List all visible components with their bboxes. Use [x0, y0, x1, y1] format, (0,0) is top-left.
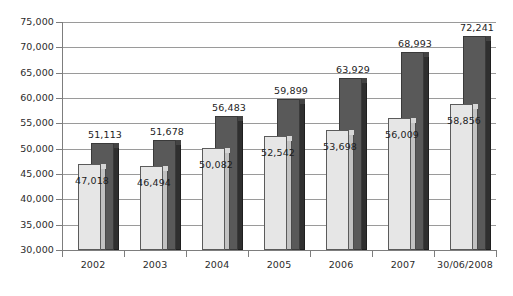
data-label-light-2004: 50,082 — [194, 159, 238, 170]
x-tick-mark — [310, 251, 311, 257]
x-tick-mark — [372, 251, 373, 257]
x-axis-label-30/06/2008: 30/06/2008 — [434, 259, 496, 270]
data-label-dark-30/06/2008: 72,241 — [455, 22, 499, 33]
bar-side-face — [424, 56, 429, 250]
data-label-light-2002: 47,018 — [70, 175, 114, 186]
bar-top-face — [287, 136, 292, 141]
x-axis-label-2003: 2003 — [124, 259, 186, 270]
y-axis-tick-label: 35,000 — [2, 220, 54, 230]
x-axis-label-2004: 2004 — [186, 259, 248, 270]
gridline — [62, 22, 496, 23]
x-axis-label-2002: 2002 — [62, 259, 124, 270]
bar-top-face — [473, 104, 478, 109]
bar-chart: 75,00070,00065,00060,00055,00050,00045,0… — [0, 0, 513, 296]
bar-side-face — [486, 40, 491, 250]
x-axis-label-2005: 2005 — [248, 259, 310, 270]
bar-top-face — [114, 143, 119, 148]
gridline — [62, 73, 496, 74]
data-label-light-2005: 52,542 — [256, 147, 300, 158]
bar-side-face — [114, 147, 119, 250]
bar-top-face — [300, 99, 305, 104]
bar-top-face — [176, 140, 181, 145]
bar-top-face — [424, 52, 429, 57]
x-axis-line — [62, 250, 497, 251]
x-tick-mark — [186, 251, 187, 257]
y-axis-line — [62, 22, 63, 251]
data-label-light-2006: 53,698 — [318, 141, 362, 152]
y-axis-tick-label: 60,000 — [2, 93, 54, 103]
x-tick-mark — [496, 251, 497, 257]
bar-side-face — [473, 108, 478, 250]
bar-side-face — [362, 82, 367, 250]
x-axis-label-2006: 2006 — [310, 259, 372, 270]
y-axis-tick-label: 45,000 — [2, 169, 54, 179]
x-tick-mark — [124, 251, 125, 257]
y-axis-tick-label: 30,000 — [2, 245, 54, 255]
data-label-dark-2005: 59,899 — [269, 85, 313, 96]
y-axis-tick-label: 55,000 — [2, 118, 54, 128]
y-axis-tick-label: 50,000 — [2, 144, 54, 154]
y-axis-tick-label: 65,000 — [2, 68, 54, 78]
data-label-light-2007: 56,009 — [380, 129, 424, 140]
bar-top-face — [349, 130, 354, 135]
data-label-light-2003: 46,494 — [132, 177, 176, 188]
bar-side-face — [411, 122, 416, 250]
y-axis-tick-label: 40,000 — [2, 194, 54, 204]
bar-side-face — [300, 103, 305, 250]
bar-top-face — [101, 164, 106, 169]
y-axis-tick-label: 75,000 — [2, 17, 54, 27]
bar-top-face — [238, 116, 243, 121]
bar-side-face — [176, 144, 181, 250]
x-tick-mark — [434, 251, 435, 257]
bar-side-face — [238, 120, 243, 250]
x-axis-label-2007: 2007 — [372, 259, 434, 270]
y-axis-labels: 75,00070,00065,00060,00055,00050,00045,0… — [0, 0, 54, 296]
data-label-dark-2004: 56,483 — [207, 102, 251, 113]
bar-top-face — [225, 148, 230, 153]
data-label-dark-2007: 68,993 — [393, 38, 437, 49]
data-label-light-30/06/2008: 58,856 — [442, 115, 486, 126]
plot-area — [62, 22, 496, 250]
y-axis-tick-label: 70,000 — [2, 42, 54, 52]
data-label-dark-2002: 51,113 — [83, 129, 127, 140]
data-label-dark-2006: 63,929 — [331, 64, 375, 75]
bar-top-face — [486, 36, 491, 41]
x-tick-mark — [62, 251, 63, 257]
bar-top-face — [411, 118, 416, 123]
bar-top-face — [163, 166, 168, 171]
x-tick-mark — [248, 251, 249, 257]
data-label-dark-2003: 51,678 — [145, 126, 189, 137]
bar-top-face — [362, 78, 367, 83]
